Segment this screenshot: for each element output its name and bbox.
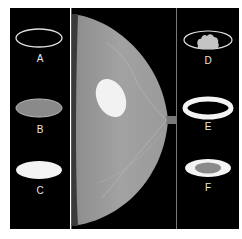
label-a: A <box>10 54 70 64</box>
shape-f-gray-center <box>195 163 221 174</box>
label-e: E <box>177 122 239 132</box>
shape-c-white-ellipse <box>16 161 62 179</box>
shape-d-lobulated-mass <box>197 34 218 49</box>
right-shape-panel: D E F <box>177 8 239 229</box>
breast-tissue <box>72 14 168 226</box>
mammogram-panel <box>71 8 177 229</box>
label-d: D <box>177 56 239 66</box>
label-b: B <box>10 125 70 135</box>
right-shapes-graphic <box>177 8 239 229</box>
shape-a-outline-ellipse <box>16 29 62 47</box>
label-c: C <box>10 186 70 196</box>
shape-e-white-ring <box>185 99 231 117</box>
mammogram-graphic <box>72 8 176 229</box>
left-shape-panel: A B C <box>10 8 70 229</box>
nipple <box>166 116 176 124</box>
shape-b-gray-ellipse <box>16 99 62 117</box>
label-f: F <box>177 183 239 193</box>
